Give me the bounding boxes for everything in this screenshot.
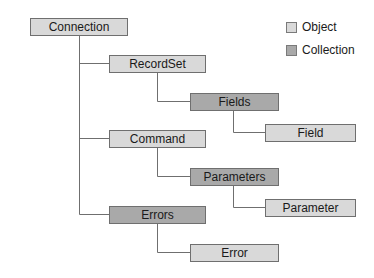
node-command: Command: [109, 130, 206, 148]
node-parameter: Parameter: [265, 199, 356, 217]
legend-collection: Collection: [286, 43, 355, 57]
legend-object: Object: [286, 20, 337, 34]
object-swatch-icon: [286, 22, 297, 33]
node-fields: Fields: [190, 93, 279, 111]
node-errors: Errors: [109, 206, 206, 224]
legend-collection-label: Collection: [302, 43, 355, 57]
node-field: Field: [265, 124, 356, 142]
legend-object-label: Object: [302, 20, 337, 34]
node-recordset: RecordSet: [109, 55, 206, 73]
node-connection: Connection: [30, 18, 128, 36]
node-parameters: Parameters: [190, 168, 279, 186]
node-error: Error: [190, 244, 279, 262]
collection-swatch-icon: [286, 45, 297, 56]
